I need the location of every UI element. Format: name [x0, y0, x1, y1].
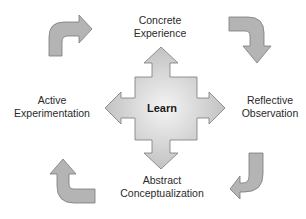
stage-label-concrete-experience: Concrete Experience [134, 14, 187, 40]
curved-arrow-icon-bottom-left [50, 159, 95, 203]
curved-arrow-icon-top-right [229, 17, 271, 63]
stage-label-line2: Experimentation [14, 107, 90, 120]
center-label-learn: Learn [147, 102, 177, 114]
curved-arrow-icon-top-left [49, 15, 92, 56]
stage-label-line2: Conceptualization [120, 187, 203, 200]
stage-label-line1: Active [14, 94, 90, 107]
stage-label-line1: Abstract [120, 174, 203, 187]
stage-label-line2: Observation [242, 107, 299, 120]
stage-label-active-experimentation: Active Experimentation [14, 94, 90, 120]
stage-label-reflective-observation: Reflective Observation [242, 94, 299, 120]
curved-arrow-icon-bottom-right [230, 153, 263, 199]
stage-label-line1: Reflective [242, 94, 299, 107]
stage-label-line2: Experience [134, 27, 187, 40]
stage-label-line1: Concrete [134, 14, 187, 27]
stage-label-abstract-conceptualization: Abstract Conceptualization [120, 174, 203, 200]
